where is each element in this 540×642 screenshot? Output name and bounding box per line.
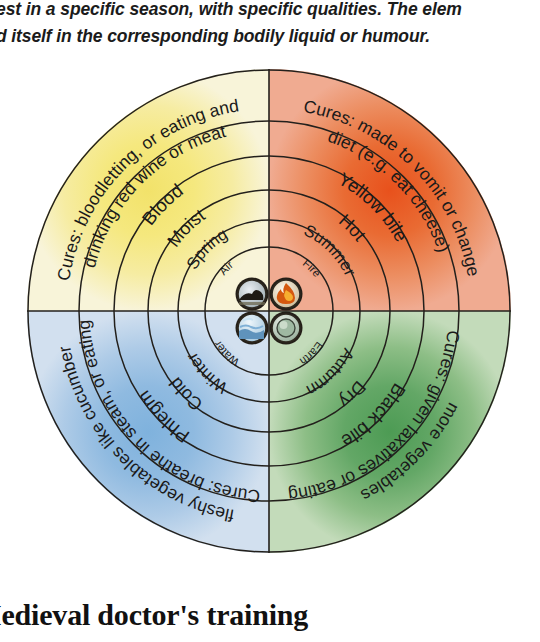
water-icon[interactable] <box>236 312 269 345</box>
caption-line-2: d itself in the corresponding bodily liq… <box>0 23 430 50</box>
quadrant-melancholic[interactable] <box>269 311 511 553</box>
fire-icon[interactable] <box>270 278 303 311</box>
earth-icon[interactable] <box>270 312 303 345</box>
poster-stage: est in a specific season, with specific … <box>0 0 540 642</box>
four-humours-wheel: Cures: bloodletting, or eating and drink… <box>27 69 511 553</box>
section-heading: Iedieval doctor's training <box>0 598 308 632</box>
air-icon[interactable] <box>236 278 269 311</box>
caption-line-1: est in a specific season, with specific … <box>0 0 462 23</box>
